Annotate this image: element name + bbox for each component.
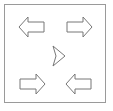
arrow-diagram — [0, 0, 113, 111]
diagram-canvas: Four block arrows around a central arrow… — [0, 0, 113, 111]
